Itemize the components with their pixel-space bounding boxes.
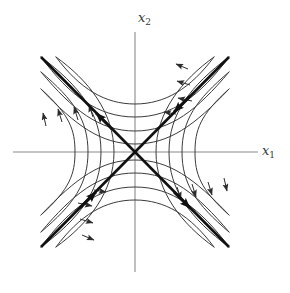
x-axis-label: x1 (262, 143, 275, 158)
phase-portrait-figure: x2 x1 (0, 0, 290, 293)
flow-arrow-top-a (176, 64, 188, 69)
separatrix-up-left (41, 57, 135, 152)
flow-arrow-left-a (43, 113, 46, 126)
flow-arrow-bottom-a (82, 235, 94, 240)
flow-arrow-right-a (224, 178, 227, 191)
separatrix-arrow-down-right (174, 192, 190, 208)
y-axis-label-sub: 2 (145, 17, 151, 27)
phase-portrait-canvas (0, 0, 290, 293)
separatrix-arrow-up-left (96, 113, 112, 129)
x-axis-label-sub: 1 (269, 150, 275, 160)
y-axis-label: x2 (138, 10, 151, 25)
